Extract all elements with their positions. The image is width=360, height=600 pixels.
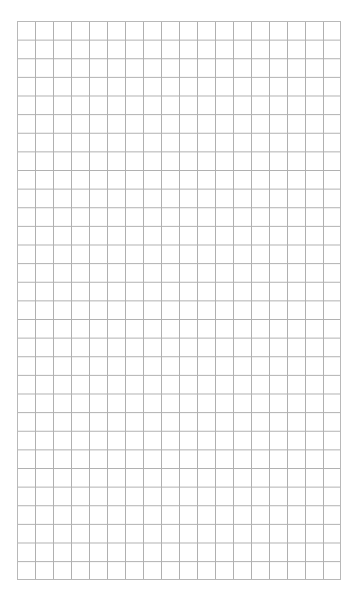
graph-paper-grid xyxy=(17,21,341,580)
